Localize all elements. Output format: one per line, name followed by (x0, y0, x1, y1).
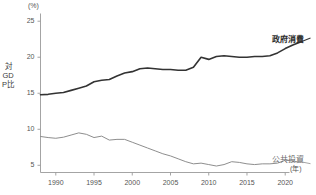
y-axis-title: 対GDP比 (2, 62, 14, 90)
x-tick-label: 2000 (119, 179, 145, 186)
y-tick-label: 25 (19, 17, 35, 24)
line-chart-canvas (0, 0, 316, 195)
y-tick-label: 10 (19, 125, 35, 132)
x-tick-label: 2015 (234, 179, 260, 186)
chart-container: (%) (年) 対GDP比 政府消費 公共投資 510152025 199019… (0, 0, 316, 195)
x-tick-label: 1995 (81, 179, 107, 186)
series-label-government-consumption: 政府消費 (272, 33, 304, 44)
series-label-public-investment: 公共投資 (272, 153, 304, 164)
x-axis-unit-label: (年) (290, 163, 302, 173)
leader-lines-group (301, 38, 311, 164)
y-tick-label: 5 (19, 161, 35, 168)
y-tick-label: 20 (19, 53, 35, 60)
series-group (41, 42, 301, 166)
x-tick-label: 2020 (272, 179, 298, 186)
x-tick-label: 2005 (158, 179, 184, 186)
axes-group (38, 14, 290, 176)
y-tick-label: 15 (19, 89, 35, 96)
y-axis-unit-label: (%) (28, 2, 39, 9)
x-tick-label: 1990 (43, 179, 69, 186)
series-line-public-investment (41, 133, 301, 166)
series-line-government-consumption (41, 42, 301, 95)
x-tick-label: 2010 (196, 179, 222, 186)
